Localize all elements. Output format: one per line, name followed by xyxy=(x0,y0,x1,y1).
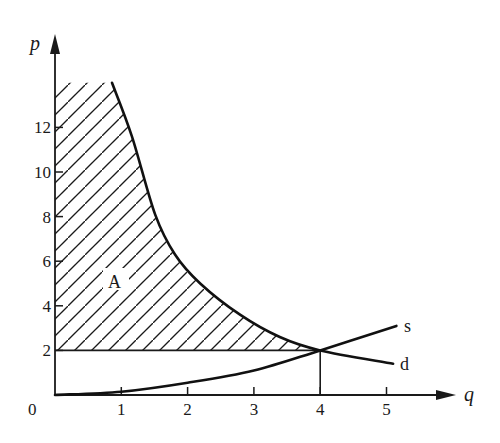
y-tick-label: 12 xyxy=(34,118,51,137)
x-tick-label: 3 xyxy=(250,400,259,419)
y-tick-label: 6 xyxy=(43,252,52,271)
x-axis-label: q xyxy=(464,383,474,406)
y-tick-label: 8 xyxy=(43,208,52,227)
y-tick-label: 10 xyxy=(34,163,51,182)
region-a-label: A xyxy=(108,272,121,292)
x-tick-label: 5 xyxy=(382,400,391,419)
x-axis-arrow-icon xyxy=(436,390,456,400)
x-tick-label: 4 xyxy=(316,400,325,419)
x-tick-label: 1 xyxy=(117,400,126,419)
demand-label: d xyxy=(400,354,409,374)
x-tick-label: 2 xyxy=(183,400,192,419)
shaded-region-a xyxy=(55,83,320,351)
y-tick-label: 2 xyxy=(43,341,52,360)
x-ticks: 12345 xyxy=(117,387,391,419)
y-axis-arrow-icon xyxy=(50,34,60,54)
y-axis-label: p xyxy=(28,32,40,55)
origin-label: 0 xyxy=(28,400,37,419)
supply-label: s xyxy=(404,316,411,336)
y-tick-label: 4 xyxy=(43,297,52,316)
supply-demand-chart: 12345 24681012 p q 0 A s d xyxy=(0,0,500,443)
